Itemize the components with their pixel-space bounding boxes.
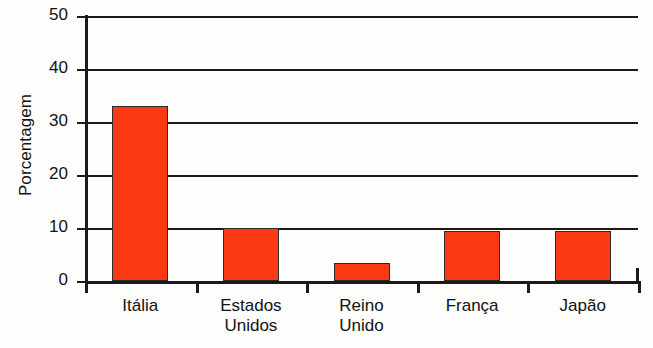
y-tick-label: 10 xyxy=(6,217,68,237)
x-tick-label-line: Estados xyxy=(220,296,281,315)
bar xyxy=(555,231,611,281)
y-tick-label: 30 xyxy=(6,111,68,131)
x-tick-mark xyxy=(527,281,530,293)
x-tick-label-line: Japão xyxy=(560,296,606,315)
y-tick-label: 50 xyxy=(6,5,68,25)
y-axis-line xyxy=(85,15,88,283)
gridline xyxy=(85,69,638,71)
x-tick-label-line: Unido xyxy=(297,316,427,336)
x-tick-mark xyxy=(196,281,199,293)
bar xyxy=(112,106,168,281)
bar-chart: Porcentagem 01020304050 ItáliaEstadosUni… xyxy=(0,0,653,348)
x-axis-line xyxy=(85,281,638,284)
bar xyxy=(334,263,390,281)
y-tick-label: 20 xyxy=(6,164,68,184)
x-tick-label-line: Itália xyxy=(122,296,158,315)
x-tick-mark xyxy=(306,281,309,293)
y-tick-label: 40 xyxy=(6,58,68,78)
x-tick-label-line: Reino xyxy=(339,296,383,315)
x-tick-label-line: França xyxy=(446,296,499,315)
y-tick-label: 0 xyxy=(6,270,68,290)
x-tick-mark xyxy=(85,281,88,293)
x-tick-mark xyxy=(638,281,641,293)
gridline xyxy=(85,16,638,18)
bar xyxy=(444,231,500,281)
x-tick-mark xyxy=(417,281,420,293)
x-tick-label: Japão xyxy=(518,296,648,316)
bar xyxy=(223,228,279,281)
